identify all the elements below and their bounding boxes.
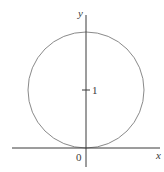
x-axis-label: x xyxy=(155,149,161,161)
y-tick-label-1: 1 xyxy=(92,84,98,96)
circle-diagram: y x 1 0 xyxy=(0,0,164,172)
origin-label: 0 xyxy=(76,151,82,163)
y-axis-label: y xyxy=(77,7,83,19)
